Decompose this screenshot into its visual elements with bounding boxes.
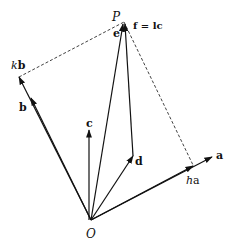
vector-d	[91, 156, 133, 220]
label-f-eq-lc: f = lc	[133, 21, 163, 31]
label-b: b	[19, 102, 27, 113]
label-p: P	[112, 11, 120, 23]
vector-e	[91, 24, 123, 220]
label-kb-b: b	[18, 59, 26, 72]
vector-f	[125, 24, 133, 156]
label-ha-a: a	[193, 174, 200, 187]
label-kb-k: k	[11, 59, 18, 72]
label-ha: ha	[186, 175, 200, 186]
label-e: e	[113, 28, 120, 39]
vector-a	[91, 157, 212, 220]
vector-b	[31, 98, 91, 220]
vector-diagram: P e f = lc kb b c d a ha O	[0, 0, 238, 244]
dashed-kb-to-p	[19, 22, 124, 77]
label-d: d	[135, 156, 143, 167]
dashed-p-to-ha	[124, 22, 193, 165]
label-o: O	[86, 228, 96, 240]
label-a: a	[216, 150, 223, 161]
label-kb: kb	[11, 60, 25, 71]
label-c: c	[86, 118, 93, 129]
